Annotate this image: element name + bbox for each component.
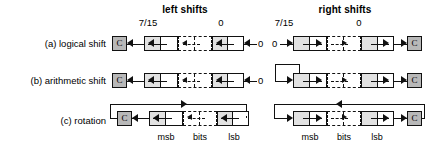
wire-c-right-carry-out — [422, 118, 425, 119]
arrow-left-icon — [148, 39, 154, 47]
bit-index-msb-left: 7/15 — [128, 17, 168, 28]
wire-c-left-loop-top — [110, 104, 247, 105]
wire-c-right-loop-down — [274, 104, 275, 118]
bit-index-lsb-left: 0 — [206, 17, 236, 28]
carry-flag-box-b-right: C — [407, 73, 422, 88]
arrow-left-icon — [127, 76, 133, 84]
bit-index-msb-right: 7/15 — [264, 17, 304, 28]
column-title-left-shifts: left shifts — [140, 4, 230, 15]
constant-zero-a-left: 0 — [258, 38, 263, 49]
arrow-left-icon — [221, 114, 227, 122]
arrow-left-icon — [336, 100, 342, 108]
wire-c-right-loop-up — [424, 104, 425, 118]
arrow-left-icon — [182, 40, 187, 46]
wire-b-right-signext-top — [275, 64, 300, 65]
arrow-left-icon — [153, 114, 159, 122]
arrow-right-icon — [401, 76, 407, 84]
row-label-logical-shift: (a) logical shift — [2, 38, 106, 49]
arrow-left-icon — [244, 76, 250, 84]
footer-label-lsb-left: lsb — [215, 132, 253, 142]
row-label-rotation: (c) rotation — [2, 115, 106, 126]
arrow-left-icon — [182, 77, 187, 83]
row-label-arithmetic-shift: (b) arithmetic shift — [2, 75, 106, 86]
arrow-right-icon — [287, 76, 293, 84]
arrow-left-icon — [187, 114, 192, 120]
footer-label-lsb-right: lsb — [358, 132, 396, 142]
constant-zero-b-left: 0 — [258, 75, 263, 86]
arrow-right-icon — [316, 39, 322, 47]
wire-c-right-loop-top — [274, 104, 425, 105]
wire-b-right-signext-down — [275, 64, 276, 81]
carry-flag-box-a-left: C — [112, 36, 127, 51]
arrow-left-icon — [244, 39, 250, 47]
column-title-right-shifts: right shifts — [295, 4, 395, 15]
shift-rotate-diagram: left shifts right shifts 7/15 0 7/15 0 (… — [0, 0, 431, 151]
arrow-right-icon — [401, 39, 407, 47]
wire-c-left-loop-join — [246, 116, 247, 118]
arrow-right-icon — [383, 114, 389, 122]
wire-c-left-loop-down — [110, 104, 111, 118]
arrow-left-icon — [132, 114, 138, 122]
arrow-right-icon — [342, 40, 347, 46]
arrow-right-icon — [401, 114, 407, 122]
bit-index-lsb-right: 0 — [344, 17, 374, 28]
arrow-right-icon — [383, 39, 389, 47]
footer-label-bits-left: bits — [180, 132, 220, 142]
carry-flag-box-c-right: C — [407, 111, 422, 126]
arrow-right-icon — [316, 114, 322, 122]
constant-zero-a-right: 0 — [272, 38, 277, 49]
arrow-right-icon — [342, 77, 347, 83]
carry-flag-box-a-right: C — [407, 36, 422, 51]
arrow-right-icon — [383, 76, 389, 84]
carry-flag-box-b-left: C — [112, 73, 127, 88]
arrow-left-icon — [148, 76, 154, 84]
arrow-right-icon — [181, 100, 187, 108]
carry-flag-box-c-left: C — [117, 111, 132, 126]
arrow-right-icon — [287, 39, 293, 47]
arrow-right-icon — [316, 76, 322, 84]
arrow-right-icon — [287, 114, 293, 122]
arrow-left-icon — [216, 39, 222, 47]
arrow-right-icon — [342, 114, 347, 120]
arrow-left-icon — [216, 76, 222, 84]
arrow-left-icon — [127, 39, 133, 47]
